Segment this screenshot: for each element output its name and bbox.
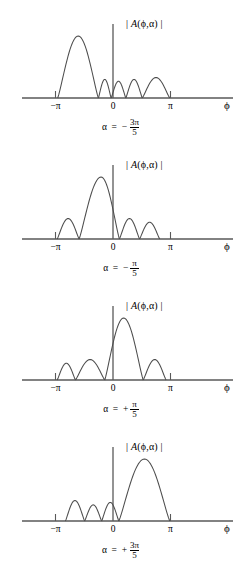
side-lobe-curve [142, 78, 169, 98]
alpha-numerator: 3π [129, 118, 140, 127]
alpha-prefix: α = + [102, 546, 127, 556]
main-lobe-curve [119, 459, 170, 521]
x-axis-label: ϕ [224, 522, 230, 534]
alpha-numerator: π [131, 400, 138, 409]
side-lobe-curve [140, 222, 160, 239]
alpha-prefix: α = + [103, 405, 128, 415]
alpha-fraction: π5 [130, 400, 139, 419]
x-axis-label: ϕ [224, 240, 230, 252]
x-tick-label: π [160, 383, 180, 393]
side-lobe-curve [57, 363, 75, 380]
panel: | A(ϕ,α) |−π0πϕα = +π5 [0, 282, 242, 423]
alpha-fraction: 3π5 [129, 541, 140, 560]
y-axis-label: | A(ϕ,α) | [126, 300, 163, 311]
y-axis-label: | A(ϕ,α) | [126, 18, 163, 29]
side-lobe-curve [85, 505, 102, 521]
x-tick-label: 0 [103, 383, 123, 393]
alpha-caption: α = −π5 [0, 259, 242, 278]
x-tick-label: 0 [103, 242, 123, 252]
side-lobe-curve [75, 360, 104, 380]
x-tick-label: −π [46, 101, 66, 111]
x-tick-label: −π [46, 242, 66, 252]
side-lobe-curve [65, 501, 84, 521]
x-tick-label: −π [46, 383, 66, 393]
alpha-prefix: α = − [103, 264, 128, 274]
alpha-denominator: 5 [130, 409, 139, 419]
alpha-prefix: α = − [102, 123, 127, 133]
x-axis-label: ϕ [224, 99, 230, 111]
side-lobe-curve [98, 79, 111, 98]
plot-area [0, 0, 242, 110]
x-tick-label: 0 [103, 524, 123, 534]
alpha-fraction: 3π5 [129, 118, 140, 137]
panel: | A(ϕ,α) |−π0πϕα = −π5 [0, 141, 242, 282]
plot-area [0, 423, 242, 533]
side-lobe-curve [119, 219, 139, 239]
x-axis-label: ϕ [224, 381, 230, 393]
side-lobe-curve [143, 360, 166, 380]
alpha-fraction: π5 [130, 259, 139, 278]
panel: | A(ϕ,α) |−π0πϕα = −3π5 [0, 0, 242, 141]
y-axis-label: | A(ϕ,α) | [126, 159, 163, 170]
x-tick-label: −π [46, 524, 66, 534]
plot-area [0, 282, 242, 392]
alpha-numerator: 3π [129, 541, 140, 550]
alpha-denominator: 5 [130, 127, 139, 137]
alpha-denominator: 5 [130, 550, 139, 560]
main-lobe-curve [105, 318, 143, 380]
side-lobe-curve [57, 219, 79, 239]
plot-area [0, 141, 242, 251]
x-tick-label: π [160, 524, 180, 534]
alpha-denominator: 5 [130, 268, 139, 278]
alpha-numerator: π [131, 259, 138, 268]
side-lobe-curve [126, 79, 142, 98]
x-tick-label: 0 [103, 101, 123, 111]
alpha-caption: α = +π5 [0, 400, 242, 419]
alpha-caption: α = −3π5 [0, 118, 242, 137]
x-tick-label: π [160, 101, 180, 111]
y-axis-label: | A(ϕ,α) | [126, 441, 163, 452]
alpha-caption: α = +3π5 [0, 541, 242, 560]
panel: | A(ϕ,α) |−π0πϕα = +3π5 [0, 423, 242, 564]
main-lobe-curve [58, 36, 99, 98]
x-tick-label: π [160, 242, 180, 252]
side-lobe-curve [102, 502, 119, 521]
figure-sheet: | A(ϕ,α) |−π0πϕα = −3π5 | A(ϕ,α) |−π0πϕα… [0, 0, 242, 564]
